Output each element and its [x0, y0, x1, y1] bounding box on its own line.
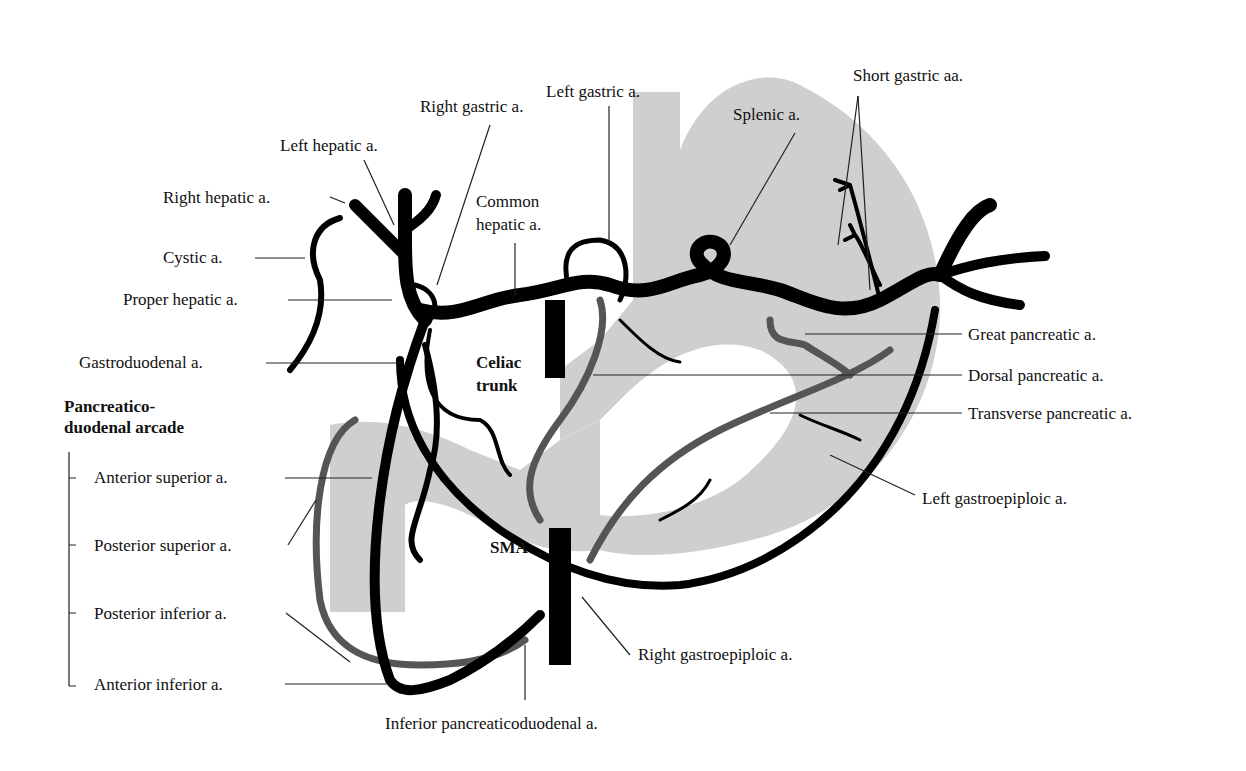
splenic-branch-lower	[940, 275, 1020, 305]
label-proper-hepatic: Proper hepatic a.	[123, 290, 238, 309]
label-inferior-pancreaticoduodenal: Inferior pancreaticoduodenal a.	[385, 714, 598, 733]
label-right-gastroepiploic: Right gastroepiploic a.	[638, 645, 792, 664]
arterial-diagram: Left gastric a. Short gastric aa. Right …	[0, 0, 1246, 771]
label-celiac-line1: Celiac	[476, 353, 521, 372]
arcade-item-anterior-superior: Anterior superior a.	[94, 468, 228, 487]
label-left-hepatic: Left hepatic a.	[280, 136, 378, 155]
label-common-hepatic-line1: Common	[476, 192, 539, 211]
label-dorsal-pancreatic: Dorsal pancreatic a.	[968, 366, 1103, 385]
organ-shapes	[330, 78, 940, 612]
arcade-item-posterior-inferior: Posterior inferior a.	[94, 604, 227, 623]
label-right-hepatic: Right hepatic a.	[163, 188, 270, 207]
label-cystic: Cystic a.	[163, 248, 223, 267]
arcade-item-anterior-inferior: Anterior inferior a.	[94, 675, 223, 694]
arcade-heading-line1: Pancreatico-	[64, 397, 155, 416]
splenic-branch-right	[940, 256, 1045, 275]
label-right-gastric: Right gastric a.	[420, 97, 523, 116]
label-transverse-pancreatic: Transverse pancreatic a.	[968, 404, 1132, 423]
label-left-gastric: Left gastric a.	[546, 82, 640, 101]
right-hepatic-artery	[355, 205, 405, 255]
label-splenic: Splenic a.	[733, 105, 800, 124]
label-great-pancreatic: Great pancreatic a.	[968, 325, 1096, 344]
cystic-artery	[290, 218, 340, 370]
label-left-gastroepiploic: Left gastroepiploic a.	[922, 489, 1067, 508]
stomach-shape	[560, 78, 940, 555]
label-short-gastric: Short gastric aa.	[853, 66, 963, 85]
label-sma: SMA	[490, 538, 528, 557]
arcade-heading-line2: duodenal arcade	[64, 418, 184, 437]
label-gastroduodenal: Gastroduodenal a.	[79, 353, 203, 372]
arcade-item-posterior-superior: Posterior superior a.	[94, 536, 231, 555]
anatomy-illustration	[0, 0, 1246, 771]
label-common-hepatic-line2: hepatic a.	[476, 215, 541, 234]
label-celiac-line2: trunk	[476, 376, 518, 395]
